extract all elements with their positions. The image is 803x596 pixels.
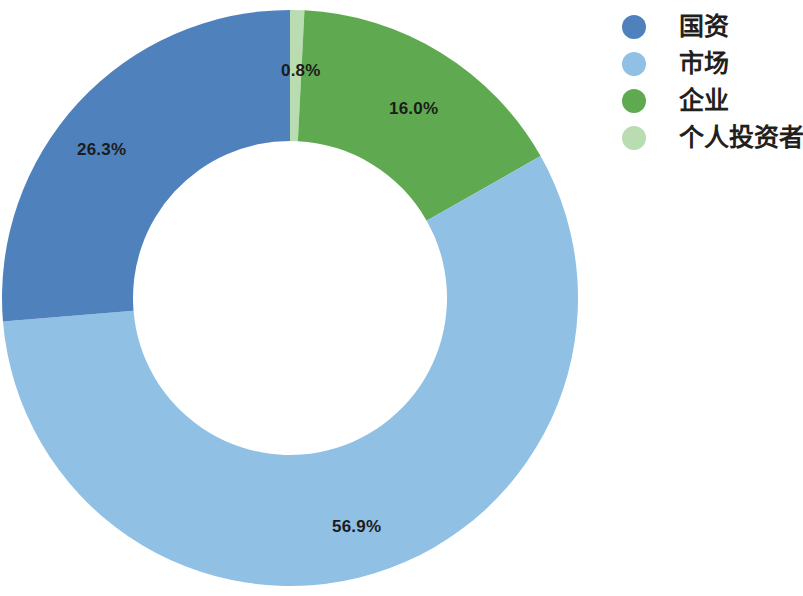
slice-label-market: 56.9% [332,518,381,535]
legend-item-label: 国资 [679,14,729,39]
legend-item-enterprise[interactable]: 企业 [622,82,803,119]
slice-label-enterprise: 16.0% [389,100,438,117]
chart-legend: 国资 市场 企业 个人投资者 [622,8,803,156]
legend-swatch-icon [622,15,646,39]
donut-chart-svg [0,0,600,596]
legend-swatch-icon [622,52,646,76]
legend-item-label: 企业 [679,88,729,113]
donut-slices [2,10,578,586]
legend-item-label: 市场 [679,51,729,76]
legend-item-label: 个人投资者 [679,125,803,150]
legend-item-state-capital[interactable]: 国资 [622,8,803,45]
slice-label-state-capital: 26.3% [77,141,126,158]
donut-slice[interactable] [2,10,290,321]
legend-swatch-icon [622,126,646,150]
legend-swatch-icon [622,89,646,113]
chart-page: 0.8% 16.0% 56.9% 26.3% 国资 市场 企业 个人投资者 [0,0,803,596]
legend-item-market[interactable]: 市场 [622,45,803,82]
donut-chart: 0.8% 16.0% 56.9% 26.3% [0,0,600,596]
slice-label-personal-investor: 0.8% [281,62,321,79]
legend-item-personal-investor[interactable]: 个人投资者 [622,119,803,156]
